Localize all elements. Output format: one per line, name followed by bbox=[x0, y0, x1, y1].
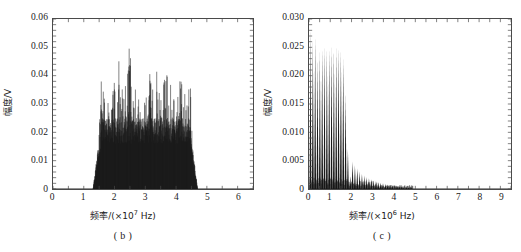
x-tick-label: 4 bbox=[392, 193, 397, 203]
chart-panel-c: 幅度/V 00.0050.0100.0150.0200.0250.030 012… bbox=[262, 0, 521, 252]
x-axis-label-c: 频率/(×106 Hz) bbox=[280, 209, 484, 222]
x-axis-label-b: 频率/(×107 Hz) bbox=[22, 209, 224, 222]
plot-frame-b bbox=[52, 18, 254, 190]
x-tick-label: 3 bbox=[370, 193, 375, 203]
spectrum-trace-b bbox=[53, 19, 253, 189]
x-tick-label: 1 bbox=[81, 193, 86, 203]
y-axis-ticks-c: 00.0050.0100.0150.0200.0250.030 bbox=[262, 18, 304, 190]
y-tick-label: 0 bbox=[299, 185, 304, 195]
y-tick-label: 0.06 bbox=[31, 13, 48, 23]
y-tick-label: 0.03 bbox=[31, 99, 48, 109]
x-axis-ticks-b: 0123456 bbox=[52, 193, 254, 207]
x-tick-label: 4 bbox=[174, 193, 179, 203]
x-axis-label-c-suffix: Hz) bbox=[397, 211, 415, 221]
y-tick-label: 0.025 bbox=[282, 42, 304, 52]
plot-area-c bbox=[308, 18, 512, 190]
x-axis-ticks-c: 0123456789 bbox=[308, 193, 512, 207]
plot-area-b bbox=[52, 18, 254, 190]
x-tick-label: 6 bbox=[434, 193, 439, 203]
panel-caption-b: ( b ) bbox=[22, 230, 224, 241]
y-tick-label: 0.020 bbox=[282, 71, 304, 81]
y-tick-label: 0.02 bbox=[31, 128, 48, 138]
x-tick-label: 2 bbox=[112, 193, 117, 203]
figure-container: 幅度/V 00.010.020.030.040.050.06 0123456 频… bbox=[0, 0, 521, 252]
y-axis-ticks-b: 00.010.020.030.040.050.06 bbox=[0, 18, 48, 190]
x-tick-label: 5 bbox=[205, 193, 210, 203]
y-tick-label: 0.030 bbox=[282, 13, 304, 23]
chart-panel-b: 幅度/V 00.010.020.030.040.050.06 0123456 频… bbox=[0, 0, 262, 252]
x-axis-label-b-prefix: 频率/(×10 bbox=[90, 211, 134, 221]
y-tick-label: 0.04 bbox=[31, 71, 48, 81]
y-tick-label: 0.010 bbox=[282, 128, 304, 138]
x-tick-label: 1 bbox=[327, 193, 332, 203]
y-tick-label: 0.015 bbox=[282, 99, 304, 109]
x-tick-label: 5 bbox=[413, 193, 418, 203]
x-tick-label: 0 bbox=[306, 193, 311, 203]
y-tick-label: 0 bbox=[43, 185, 48, 195]
x-tick-label: 7 bbox=[456, 193, 461, 203]
x-tick-label: 2 bbox=[349, 193, 354, 203]
y-tick-label: 0.005 bbox=[282, 157, 304, 167]
x-axis-label-b-suffix: Hz) bbox=[138, 211, 156, 221]
spectrum-trace-c bbox=[309, 19, 511, 189]
y-tick-label: 0.05 bbox=[31, 42, 48, 52]
y-tick-label: 0.01 bbox=[31, 157, 48, 167]
x-tick-label: 0 bbox=[50, 193, 55, 203]
x-tick-label: 6 bbox=[236, 193, 241, 203]
plot-frame-c bbox=[308, 18, 512, 190]
panel-caption-c: ( c ) bbox=[280, 230, 484, 241]
x-axis-label-c-prefix: 频率/(×10 bbox=[349, 211, 393, 221]
x-tick-label: 3 bbox=[143, 193, 148, 203]
x-tick-label: 8 bbox=[477, 193, 482, 203]
x-tick-label: 9 bbox=[499, 193, 504, 203]
